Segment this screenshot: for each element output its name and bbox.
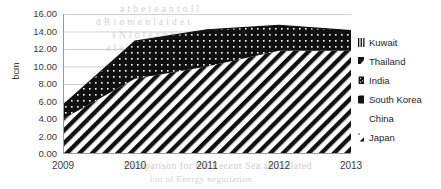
x-axis-tick-label: 2013: [340, 160, 362, 171]
x-axis-tick-label: 2009: [52, 160, 74, 171]
legend-item-south-korea[interactable]: South Korea: [358, 90, 441, 109]
legend-swatch-dark-icon: [358, 57, 365, 66]
legend-item-china[interactable]: China: [358, 109, 441, 128]
legend-item-label: Japan: [369, 132, 395, 143]
legend-swatch-solid-icon: [358, 95, 365, 104]
chart-legend: KuwaitThailandIndiaSouth KoreaChinaJapan: [358, 33, 441, 147]
x-axis-tick-label: 2010: [124, 160, 146, 171]
legend-item-label: South Korea: [369, 94, 422, 105]
legend-item-kuwait[interactable]: Kuwait: [358, 33, 441, 52]
legend-item-india[interactable]: India: [358, 71, 441, 90]
chart-figure: a t h e i e a n t o l l d R i o m e n l …: [0, 0, 441, 189]
legend-swatch-blank-icon: [358, 114, 365, 123]
legend-swatch-striped-icon: [358, 38, 365, 47]
x-axis-tick-label: 2012: [268, 160, 290, 171]
legend-item-label: India: [369, 75, 390, 86]
legend-item-japan[interactable]: Japan: [358, 128, 441, 147]
legend-swatch-dotted-icon: [358, 76, 365, 85]
legend-item-label: Thailand: [369, 56, 405, 67]
legend-item-label: Kuwait: [369, 37, 398, 48]
legend-item-thailand[interactable]: Thailand: [358, 52, 441, 71]
legend-swatch-hatch-icon: [358, 133, 365, 142]
legend-item-label: China: [369, 113, 394, 124]
x-axis-tick-label: 2011: [196, 160, 218, 171]
